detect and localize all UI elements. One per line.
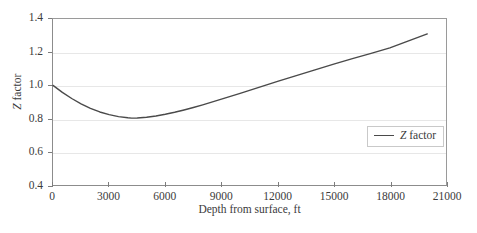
y-tick-mark bbox=[48, 85, 52, 86]
y-tick: 1.2 bbox=[0, 52, 52, 53]
x-tick-mark bbox=[391, 182, 392, 187]
x-tick-label: 9000 bbox=[210, 191, 233, 203]
y-tick: 0.4 bbox=[0, 186, 52, 187]
x-tick-mark bbox=[52, 182, 53, 187]
y-tick: 0.6 bbox=[0, 152, 52, 153]
y-tick-label: 1.0 bbox=[29, 79, 43, 91]
x-tick-mark bbox=[108, 182, 109, 187]
legend-label-rest: factor bbox=[406, 129, 436, 141]
y-axis-title-rest: factor bbox=[11, 74, 23, 104]
y-tick-label: 0.6 bbox=[29, 146, 43, 158]
y-tick-label: 0.8 bbox=[29, 113, 43, 125]
y-tick-mark bbox=[48, 152, 52, 153]
x-tick-label: 0 bbox=[49, 191, 55, 203]
y-axis: 0.40.60.81.01.21.4 bbox=[0, 0, 477, 233]
y-tick-mark bbox=[48, 18, 52, 19]
x-tick-label: 3000 bbox=[97, 191, 120, 203]
y-tick-label: 0.4 bbox=[29, 180, 43, 192]
legend: Z factor bbox=[367, 126, 444, 147]
x-tick-mark bbox=[334, 182, 335, 187]
x-tick-label: 12000 bbox=[263, 191, 292, 203]
x-tick-mark bbox=[165, 182, 166, 187]
x-tick-label: 6000 bbox=[153, 191, 176, 203]
y-tick-label: 1.2 bbox=[29, 46, 43, 58]
legend-label-z-factor: Z factor bbox=[400, 130, 436, 142]
y-tick-mark bbox=[48, 52, 52, 53]
y-tick: 1.4 bbox=[0, 18, 52, 19]
x-tick-mark bbox=[447, 182, 448, 187]
x-tick-mark bbox=[221, 182, 222, 187]
z-factor-chart: 0.40.60.81.01.21.4 Depth from surface, f… bbox=[0, 0, 477, 233]
y-tick-mark bbox=[48, 119, 52, 120]
y-axis-title: Z factor bbox=[12, 42, 24, 142]
y-axis-title-symbol: Z bbox=[11, 103, 23, 109]
x-tick-label: 18000 bbox=[376, 191, 405, 203]
y-tick: 0.8 bbox=[0, 119, 52, 120]
legend-swatch-z-factor bbox=[374, 135, 394, 136]
y-tick: 1.0 bbox=[0, 85, 52, 86]
x-tick-mark bbox=[278, 182, 279, 187]
y-tick-label: 1.4 bbox=[29, 12, 43, 24]
x-axis-title: Depth from surface, ft bbox=[52, 204, 447, 216]
x-tick-label: 21000 bbox=[433, 191, 462, 203]
x-tick-label: 15000 bbox=[320, 191, 349, 203]
